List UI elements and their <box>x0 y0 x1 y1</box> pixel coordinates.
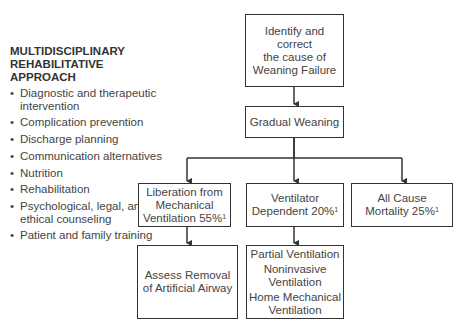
assess-airway-box: Assess Removal of Artificial Airway <box>137 245 238 319</box>
identify-line-3: Weaning Failure <box>253 64 337 77</box>
list-item: •Diagnostic and therapeutic intervention <box>10 87 180 112</box>
bullet-icon: • <box>10 150 14 163</box>
liberation-percent: Ventilation 55% <box>143 212 222 224</box>
list-item-label: Psychological, legal, and ethical counse… <box>20 200 147 225</box>
dependent-percent: Dependent 20% <box>252 205 334 217</box>
identify-cause-box: Identify and correct the cause of Weanin… <box>245 14 344 87</box>
dependent-line-1: Ventilator <box>271 192 319 205</box>
list-item: •Communication alternatives <box>10 150 180 163</box>
footnote-ref: 1 <box>222 213 226 220</box>
mortality-box: All Cause Mortality 25%1 <box>351 183 453 227</box>
list-item-label: Diagnostic and therapeutic intervention <box>20 87 156 112</box>
footnote-ref: 1 <box>435 206 439 213</box>
title-line-2: REHABILITATIVE <box>10 58 180 71</box>
gradual-weaning-box: Gradual Weaning <box>245 106 344 138</box>
liberation-line-3: Ventilation 55%1 <box>143 212 226 225</box>
list-item-label: Nutrition <box>20 167 63 179</box>
bullet-icon: • <box>10 133 14 146</box>
list-item: •Nutrition <box>10 167 180 180</box>
list-item-label: Rehabilitation <box>20 183 90 195</box>
bullet-icon: • <box>10 167 14 180</box>
option-home-mechanical-ventilation: Home Mechanical Ventilation <box>247 291 343 317</box>
liberation-line-1: Liberation from <box>146 186 223 199</box>
ventilator-dependent-box: Ventilator Dependent 20%1 <box>246 183 344 227</box>
dependent-line-2: Dependent 20%1 <box>252 205 338 218</box>
mortality-line-2: Mortality 25%1 <box>365 205 439 218</box>
ventilation-options-box: Partial Ventilation Noninvasive Ventilat… <box>246 245 344 319</box>
assess-line-1: Assess Removal <box>145 269 231 282</box>
list-item-label: Patient and family training <box>20 229 152 241</box>
list-item: •Patient and family training <box>10 229 180 242</box>
title-line-1: MULTIDISCIPLINARY <box>10 45 180 58</box>
list-item-label: Discharge planning <box>20 133 118 145</box>
bullet-icon: • <box>10 200 14 213</box>
list-item: •Complication prevention <box>10 116 180 129</box>
option-partial-ventilation: Partial Ventilation <box>247 248 343 261</box>
mortality-line-1: All Cause <box>377 192 426 205</box>
gradual-weaning-label: Gradual Weaning <box>250 116 339 129</box>
mortality-percent: Mortality 25% <box>365 205 435 217</box>
identify-line-1: Identify and correct <box>246 25 343 51</box>
bullet-icon: • <box>10 183 14 196</box>
ventilation-options-list: Partial Ventilation Noninvasive Ventilat… <box>247 246 343 319</box>
identify-line-2: the cause of <box>263 51 326 64</box>
list-item: •Discharge planning <box>10 133 180 146</box>
liberation-box: Liberation from Mechanical Ventilation 5… <box>138 183 231 227</box>
bullet-icon: • <box>10 116 14 129</box>
liberation-line-2: Mechanical <box>155 199 213 212</box>
bullet-icon: • <box>10 87 14 100</box>
panel-title: MULTIDISCIPLINARY REHABILITATIVE APPROAC… <box>10 45 180 84</box>
assess-line-2: of Artificial Airway <box>143 282 232 295</box>
list-item-label: Complication prevention <box>20 116 143 128</box>
footnote-ref: 1 <box>334 206 338 213</box>
bullet-icon: • <box>10 229 14 242</box>
list-item-label: Communication alternatives <box>20 150 162 162</box>
title-line-3: APPROACH <box>10 71 180 84</box>
option-noninvasive-ventilation: Noninvasive Ventilation <box>247 263 343 289</box>
